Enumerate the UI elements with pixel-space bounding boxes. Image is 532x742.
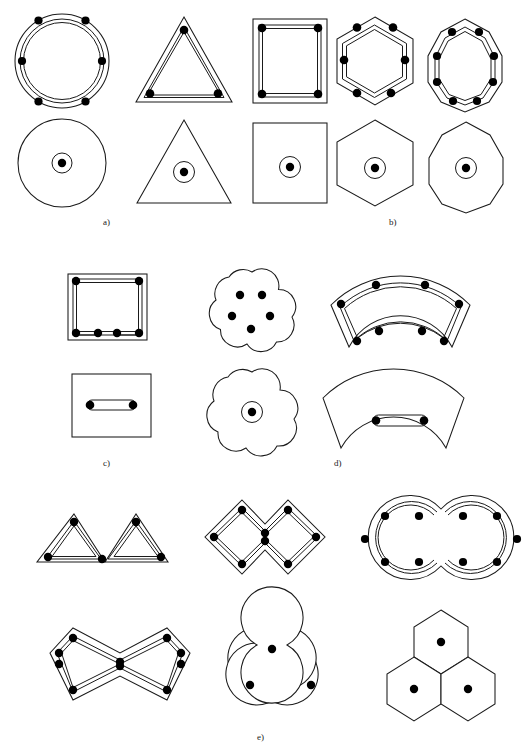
section-circular-section-plain <box>18 119 106 207</box>
section-octagonal-section-reinforced <box>428 19 502 112</box>
section-octagonal-section-plain <box>429 122 503 213</box>
section-double-hexagon-section-reinforced <box>50 628 190 700</box>
section-double-diamond-section-reinforced <box>205 500 325 574</box>
section-double-peak-section-reinforced <box>37 514 168 563</box>
section-square-section-plain <box>253 123 327 203</box>
section-hexagonal-section-plain <box>337 120 413 206</box>
section-triangular-section-plain <box>137 120 231 203</box>
section-rectangular-section-reinforced <box>68 274 147 340</box>
caption-d: d) <box>334 459 342 468</box>
section-hexagon-cluster-section-plain <box>387 610 495 721</box>
section-annular-sector-section-with-slot <box>323 369 464 448</box>
section-square-section-reinforced <box>253 19 327 103</box>
section-hexagonal-section-reinforced <box>337 17 413 105</box>
section-circular-section-reinforced <box>15 14 109 108</box>
section-trefoil-section-plain <box>226 587 318 705</box>
section-twin-circle-section-reinforced <box>361 496 521 580</box>
caption-c: c) <box>103 459 110 468</box>
section-triangular-section-reinforced <box>136 17 232 102</box>
caption-b: b) <box>389 218 397 227</box>
figure-container: a) b) c) d) e) <box>0 0 532 742</box>
section-five-lobe-section-reinforced <box>209 269 295 352</box>
caption-a: a) <box>103 218 110 227</box>
section-rectangular-section-with-slot <box>72 374 151 437</box>
section-five-lobe-section-plain <box>207 369 298 456</box>
caption-e: e) <box>257 733 264 742</box>
cross-section-figure <box>0 0 532 742</box>
section-annular-sector-section-reinforced <box>331 276 470 347</box>
